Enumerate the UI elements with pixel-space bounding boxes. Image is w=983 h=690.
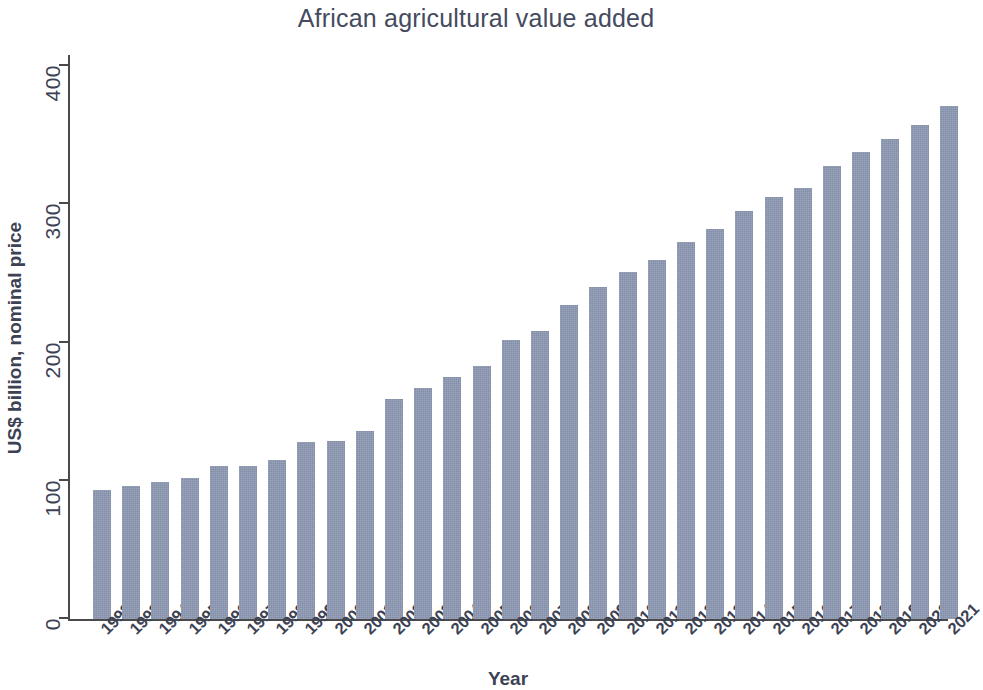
y-axis-tick-label: 100 — [41, 480, 65, 517]
bar — [385, 399, 403, 619]
bar-group: 2001 — [351, 55, 380, 619]
bar-group: 2016 — [789, 55, 818, 619]
bar-group: 2020 — [906, 55, 935, 619]
bar — [940, 106, 958, 619]
bar-series: 1992199319941995199619971998199920002001… — [68, 55, 948, 619]
bar-group: 2002 — [380, 55, 409, 619]
bar — [268, 460, 286, 619]
bar-group: 1992 — [88, 55, 117, 619]
bar-group: 2000 — [322, 55, 351, 619]
y-axis-tick-label: 300 — [41, 203, 65, 240]
bar-group: 1997 — [234, 55, 263, 619]
bar-group: 1996 — [205, 55, 234, 619]
bar — [297, 442, 315, 619]
x-axis-title: Year — [68, 668, 948, 690]
bar-group: 2005 — [468, 55, 497, 619]
bar — [619, 272, 637, 619]
bar-group: 2006 — [497, 55, 526, 619]
bar-group: 2010 — [614, 55, 643, 619]
bar-group: 2007 — [526, 55, 555, 619]
bar — [589, 287, 607, 619]
y-axis-title-label: US$ billion, nominal price — [4, 222, 26, 454]
bar — [531, 331, 549, 619]
bar-group: 2015 — [760, 55, 789, 619]
bar-group: 2011 — [643, 55, 672, 619]
bar-group: 2004 — [438, 55, 467, 619]
bar — [122, 486, 140, 619]
bar-group: 1999 — [292, 55, 321, 619]
bar — [151, 482, 169, 619]
bar — [677, 242, 695, 619]
bar — [239, 466, 257, 619]
bar — [648, 260, 666, 619]
bar-group: 2009 — [584, 55, 613, 619]
bar-group: 2021 — [935, 55, 964, 619]
bar — [881, 139, 899, 619]
bar — [852, 152, 870, 619]
bar — [210, 466, 228, 619]
bar — [181, 478, 199, 619]
bar — [560, 305, 578, 619]
bar-group: 2019 — [876, 55, 905, 619]
bar-group: 2003 — [409, 55, 438, 619]
bar — [706, 229, 724, 619]
bar-group: 2013 — [701, 55, 730, 619]
bar — [765, 197, 783, 619]
bar-group: 2014 — [730, 55, 759, 619]
bar-group: 2008 — [555, 55, 584, 619]
bar — [911, 125, 929, 619]
bar-group: 1993 — [117, 55, 146, 619]
y-axis-tick-label: 200 — [41, 342, 65, 379]
bar — [823, 166, 841, 619]
bar — [502, 340, 520, 619]
chart-title: African agricultural value added — [0, 4, 952, 33]
bar-group: 1995 — [176, 55, 205, 619]
bar — [443, 377, 461, 619]
bar — [93, 490, 111, 619]
bar-group: 2017 — [818, 55, 847, 619]
bar — [794, 188, 812, 619]
bar-group: 1994 — [146, 55, 175, 619]
bar — [473, 366, 491, 619]
plot-area: 0100200300400 19921993199419951996199719… — [68, 55, 948, 621]
bar — [735, 211, 753, 619]
bar — [356, 431, 374, 619]
bar-group: 2012 — [672, 55, 701, 619]
bar-group: 2018 — [847, 55, 876, 619]
bar-group: 1998 — [263, 55, 292, 619]
y-axis-title: US$ billion, nominal price — [2, 55, 28, 621]
bar — [414, 388, 432, 619]
bar — [327, 441, 345, 619]
y-axis-tick-label: 400 — [41, 65, 65, 102]
y-axis-tick-label: 0 — [41, 618, 65, 630]
